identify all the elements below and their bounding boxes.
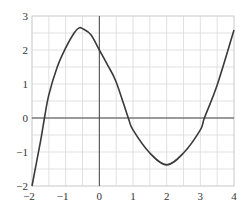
y-tick-label: −1 bbox=[16, 146, 28, 158]
x-tick-label: 0 bbox=[97, 190, 103, 202]
x-tick-label: 2 bbox=[164, 190, 170, 202]
x-tick-label: 4 bbox=[231, 190, 237, 202]
y-tick-label: 2 bbox=[23, 44, 29, 56]
y-tick-label: 0 bbox=[23, 112, 29, 124]
x-tick-label: 3 bbox=[198, 190, 204, 202]
x-tick-label: 1 bbox=[130, 190, 136, 202]
grid-lines bbox=[32, 16, 234, 186]
y-tick-label: 3 bbox=[23, 10, 29, 22]
x-tick-label: −1 bbox=[57, 190, 69, 202]
y-tick-label: 1 bbox=[23, 78, 29, 90]
function-plot: −2−101234 −2−10123 bbox=[0, 0, 245, 215]
x-tick-labels: −2−101234 bbox=[23, 190, 237, 202]
y-tick-labels: −2−10123 bbox=[16, 10, 28, 192]
y-tick-label: −2 bbox=[16, 180, 28, 192]
